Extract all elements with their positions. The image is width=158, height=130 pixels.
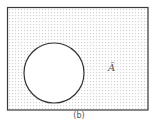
complement-a-label: Ā xyxy=(108,63,115,73)
figure-caption: (b) xyxy=(0,112,158,120)
set-a-circle xyxy=(24,43,84,103)
